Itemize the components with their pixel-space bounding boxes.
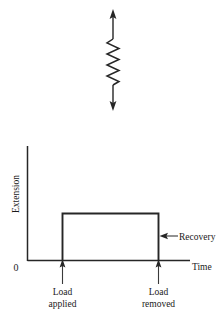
- extension-step-curve: [63, 214, 159, 262]
- load-applied-label-line1: Load: [53, 287, 73, 297]
- plot-axes: [28, 146, 191, 261]
- figure-container: Extension Time 0 Load applied Load remov…: [0, 0, 224, 318]
- x-axis-label: Time: [192, 262, 212, 272]
- load-removed-label-line2: removed: [142, 299, 175, 309]
- load-applied-marker: [60, 259, 66, 284]
- load-removed-marker: [156, 259, 162, 284]
- data-series-line: [63, 214, 159, 262]
- recovery-label: Recovery: [179, 232, 216, 242]
- figure-svg: Extension Time 0 Load applied Load remov…: [0, 0, 224, 318]
- origin-label: 0: [14, 262, 19, 273]
- spring-coil-icon: [107, 39, 119, 85]
- recovery-marker: [160, 233, 179, 239]
- load-applied-label-line2: applied: [49, 299, 77, 309]
- y-axis-label: Extension: [11, 175, 21, 213]
- load-removed-label-line1: Load: [149, 287, 169, 297]
- spring-diagram: [107, 9, 119, 111]
